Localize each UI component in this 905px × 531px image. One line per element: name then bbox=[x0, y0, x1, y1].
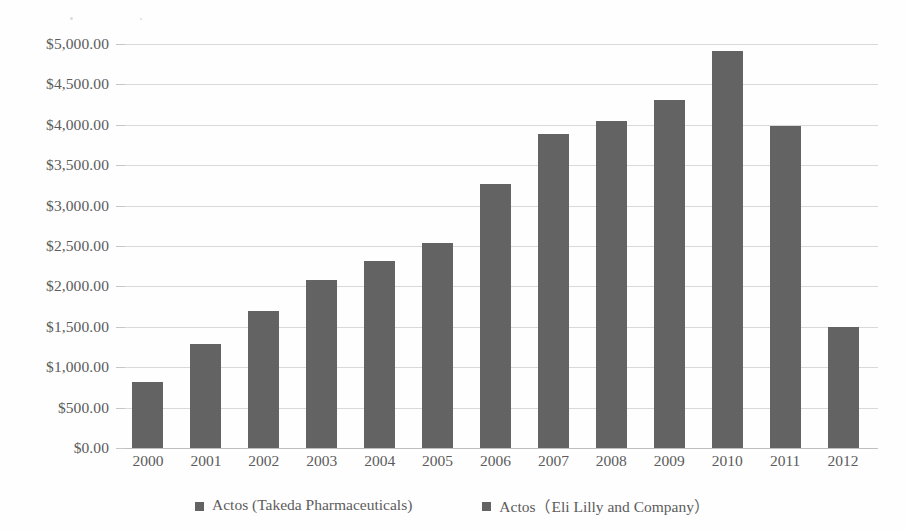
legend-swatch-icon bbox=[195, 502, 204, 511]
x-axis-tick-label: 2001 bbox=[176, 452, 236, 470]
legend-swatch-icon bbox=[482, 502, 491, 511]
plot-area bbox=[125, 44, 878, 448]
bar bbox=[480, 184, 511, 448]
bar bbox=[712, 51, 743, 448]
bar bbox=[828, 327, 859, 448]
y-axis-tick-mark bbox=[116, 367, 125, 368]
y-axis-tick-mark bbox=[116, 408, 125, 409]
y-axis-tick-label: $5,000.00 bbox=[46, 35, 109, 53]
bar bbox=[770, 126, 801, 448]
y-axis-tick-mark bbox=[116, 125, 125, 126]
gridline bbox=[125, 44, 878, 45]
y-axis-tick-label: $1,500.00 bbox=[46, 318, 109, 336]
x-axis-tick-label: 2002 bbox=[234, 452, 294, 470]
x-axis-tick-label: 2008 bbox=[581, 452, 641, 470]
x-axis-tick-label: 2011 bbox=[755, 452, 815, 470]
bar bbox=[190, 344, 221, 448]
x-axis: 2000200120022003200420052006200720082009… bbox=[125, 452, 878, 478]
bar bbox=[364, 261, 395, 448]
legend-label: Actos（Eli Lilly and Company） bbox=[499, 494, 710, 516]
x-axis-tick-label: 2005 bbox=[408, 452, 468, 470]
y-axis-tick-label: $2,500.00 bbox=[46, 237, 109, 255]
bar bbox=[654, 100, 685, 448]
bar bbox=[132, 382, 163, 448]
x-axis-tick-label: 2006 bbox=[466, 452, 526, 470]
x-axis-tick-label: 2003 bbox=[292, 452, 352, 470]
bar bbox=[538, 134, 569, 448]
x-axis-tick-label: 2010 bbox=[697, 452, 757, 470]
y-axis-tick-mark bbox=[116, 165, 125, 166]
x-axis-tick-label: 2004 bbox=[350, 452, 410, 470]
gridline bbox=[125, 165, 878, 166]
y-axis-tick-label: $3,500.00 bbox=[46, 156, 109, 174]
gridline bbox=[125, 125, 878, 126]
bar bbox=[596, 121, 627, 448]
bar bbox=[306, 280, 337, 448]
y-axis-tick-label: $500.00 bbox=[58, 399, 109, 417]
bar-chart: $0.00$500.00$1,000.00$1,500.00$2,000.00$… bbox=[0, 0, 905, 531]
x-axis-tick-label: 2009 bbox=[639, 452, 699, 470]
legend-entry[interactable]: Actos (Takeda Pharmaceuticals) bbox=[195, 496, 412, 514]
y-axis-tick-mark bbox=[116, 206, 125, 207]
bar bbox=[422, 243, 453, 448]
x-axis-tick-label: 2000 bbox=[118, 452, 178, 470]
chart-legend: Actos (Takeda Pharmaceuticals)Actos（Eli … bbox=[0, 492, 905, 518]
bar bbox=[248, 311, 279, 448]
x-axis-tick-label: 2012 bbox=[813, 452, 873, 470]
y-axis-tick-label: $3,000.00 bbox=[46, 197, 109, 215]
y-axis-tick-label: $4,000.00 bbox=[46, 116, 109, 134]
y-axis-tick-mark bbox=[116, 327, 125, 328]
y-axis-tick-mark bbox=[116, 246, 125, 247]
y-axis-tick-mark bbox=[116, 448, 125, 449]
y-axis: $0.00$500.00$1,000.00$1,500.00$2,000.00$… bbox=[0, 0, 125, 531]
gridline bbox=[125, 84, 878, 85]
legend-entry[interactable]: Actos（Eli Lilly and Company） bbox=[482, 494, 710, 516]
legend-label: Actos (Takeda Pharmaceuticals) bbox=[212, 496, 412, 514]
x-axis-tick-label: 2007 bbox=[523, 452, 583, 470]
axis-baseline bbox=[125, 448, 878, 449]
y-axis-tick-mark bbox=[116, 84, 125, 85]
y-axis-tick-mark bbox=[116, 44, 125, 45]
y-axis-tick-label: $1,000.00 bbox=[46, 358, 109, 376]
y-axis-tick-label: $2,000.00 bbox=[46, 277, 109, 295]
scan-artifact bbox=[140, 18, 142, 20]
y-axis-tick-label: $4,500.00 bbox=[46, 75, 109, 93]
y-axis-tick-label: $0.00 bbox=[74, 439, 109, 457]
y-axis-tick-mark bbox=[116, 286, 125, 287]
